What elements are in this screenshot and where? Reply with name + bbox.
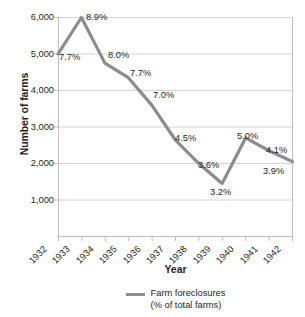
x-axis-title: Year [58, 263, 293, 275]
legend-text-block: Farm foreclosures (% of total farms) [151, 288, 226, 311]
legend-swatch-farm-foreclosures [126, 293, 145, 296]
data-label-1934: 8.0% [108, 50, 129, 60]
farm-foreclosures-line-chart: Number of farms 6,000 5,000 4,000 3,000 … [0, 0, 305, 317]
data-label-1933: 8.9% [86, 12, 107, 22]
data-label-1941: 4.1% [266, 145, 287, 155]
data-label-1938: 3.6% [198, 160, 219, 170]
data-label-1939: 3.2% [210, 187, 231, 197]
data-label-1937: 4.5% [175, 133, 196, 143]
legend-label-line2: (% of total farms) [151, 300, 226, 312]
data-label-1936: 7.0% [153, 90, 174, 100]
data-label-1932: 7.7% [59, 52, 80, 62]
data-label-1935: 7.7% [130, 68, 151, 78]
data-label-1940: 5.0% [237, 131, 258, 141]
data-label-1942: 3.9% [263, 166, 284, 176]
legend-label-line1: Farm foreclosures [151, 288, 226, 300]
chart-legend: Farm foreclosures (% of total farms) [58, 288, 293, 311]
x-tick-1932: 1932 [27, 244, 49, 266]
